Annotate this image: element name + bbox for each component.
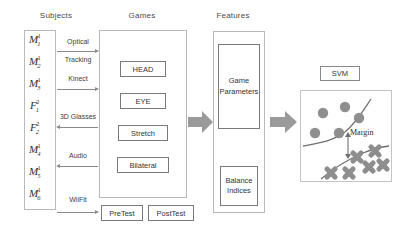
svm-circle-point [318,108,328,118]
subject-label: M41 [29,144,45,155]
svm-cross-point [327,169,335,177]
column-header-subjects: Subjects [26,11,86,20]
connector-arrowhead-3d-glasses [56,125,60,129]
subject-label: M61 [29,188,45,199]
svm-cross-point [371,147,379,155]
feature-label-line1: Balance [225,176,252,186]
subject-sub: 6 [37,194,40,201]
svm-cross-point [345,169,353,177]
subject-label: F22 [30,122,43,133]
svm-plot-graphics [301,91,391,181]
svm-margin-label: Margin [350,128,373,137]
connector-line-optical [57,51,96,52]
block-arrow-games-to-features [188,110,214,134]
subject-sub: 2 [37,62,40,69]
subject-sup: 1 [37,186,40,193]
subject-label: M51 [29,166,45,177]
subject-sup: 1 [37,32,40,39]
svm-circle-point [334,128,344,138]
game-node-bilateral[interactable]: Bilateral [117,157,169,173]
connector-label-optical: Optical [57,38,99,45]
svm-title-box: SVM [320,66,360,81]
feature-label-line1: Game [229,76,249,86]
subject-label: M31 [29,78,45,89]
connector-line-wiifit [57,212,96,213]
test-node-posttest[interactable]: PostTest [148,205,194,221]
subject-label: F12 [30,100,43,111]
svm-margin-arrowhead-down [345,154,351,159]
svm-cross-point [353,153,361,161]
connector-arrowhead-audio [56,164,60,168]
subject-sub: 4 [37,150,40,157]
connector-label-audio: Audio [57,152,99,159]
connector-arrowhead-wiifit [95,210,99,214]
subject-sub: 3 [37,84,40,91]
svm-circle-point [354,113,364,123]
connector-line-3d-glasses [60,127,98,128]
connector-label-tracking: Tracking [57,56,99,63]
connector-label-3d-glasses: 3D Glasses [54,113,102,120]
game-node-head[interactable]: HEAD [120,61,166,77]
svm-circle-point [340,102,350,112]
subject-sup: 1 [37,164,40,171]
subject-sup: 2 [36,120,39,127]
test-node-pretest[interactable]: PreTest [101,205,143,221]
svm-cross-point [379,161,387,169]
subject-sup: 1 [37,142,40,149]
subject-sup: 2 [36,98,39,105]
column-header-games: Games [112,11,172,20]
svm-circle-point [310,128,320,138]
subject-sub: 1 [36,106,39,113]
connector-line-kinect [57,89,96,90]
game-node-stretch[interactable]: Stretch [118,125,168,141]
connector-label-wiifit: WiiFit [57,196,99,203]
feature-node-balance-indices[interactable]: Balance Indices [220,166,258,206]
subject-label: M11 [29,34,45,45]
subject-sup: 1 [37,54,40,61]
column-header-features: Features [203,11,263,20]
feature-node-game-parameters[interactable]: Game Parameters [218,44,260,129]
block-arrow-features-to-svm [270,110,298,134]
subject-sup: 1 [37,76,40,83]
svm-cross-point [365,163,373,171]
subject-sub: 1 [37,40,40,47]
feature-label-line2: Parameters [220,87,259,97]
subject-sub: 2 [36,128,39,135]
connector-line-audio [60,166,98,167]
game-node-eye[interactable]: EYE [120,93,166,109]
connector-label-kinect: Kinect [57,75,99,82]
subject-label: M21 [29,56,45,67]
feature-label-line2: Indices [227,186,251,196]
subject-sub: 5 [37,172,40,179]
